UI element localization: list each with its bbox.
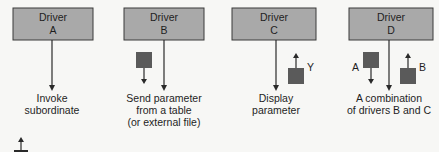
driver-d-caption-line2: of drivers B and C: [347, 104, 431, 116]
arrow-down-icon: [386, 85, 392, 91]
driver-b-title: Driver: [150, 11, 179, 23]
driver-a-caption-line2: subordinate: [25, 104, 80, 116]
driver-c-param-square: [288, 68, 304, 84]
driver-d-param-square-b: [400, 68, 416, 84]
driver-d-caption-line1: A combination: [356, 92, 422, 104]
partial-square-edge: [14, 150, 28, 152]
driver-b-letter: B: [160, 24, 167, 36]
driver-a-caption-line1: Invoke: [37, 92, 68, 104]
driver-b-caption-line1: Send parameter: [126, 92, 202, 104]
driver-d-param-label-b: B: [419, 61, 426, 73]
driver-diagram: Driver A Invoke subordinate Driver B Sen…: [0, 0, 439, 152]
driver-d: Driver D A B A combination of drivers B …: [347, 8, 433, 116]
arrow-up-icon: [293, 53, 299, 58]
arrow-down-icon: [273, 85, 279, 91]
arrow-down-icon: [49, 85, 55, 91]
driver-a: Driver A Invoke subordinate: [13, 8, 93, 116]
driver-c-letter: C: [270, 24, 278, 36]
arrow-up-icon: [18, 137, 24, 142]
arrow-down-icon: [161, 85, 167, 91]
driver-c-title: Driver: [260, 11, 289, 23]
arrow-up-icon: [405, 53, 411, 58]
driver-d-param-label-a: A: [352, 61, 359, 73]
partial-next-figure: [14, 137, 28, 152]
driver-a-letter: A: [49, 24, 56, 36]
driver-a-title: Driver: [39, 11, 68, 23]
driver-c-caption-line2: parameter: [252, 104, 300, 116]
driver-c: Driver C Y Display parameter: [232, 8, 316, 116]
driver-d-param-square-a: [363, 52, 379, 68]
driver-b: Driver B Send parameter from a table (or…: [124, 8, 204, 128]
arrow-down-icon: [141, 79, 147, 84]
driver-b-caption-line2: from a table: [136, 104, 192, 116]
driver-b-param-square: [136, 52, 152, 68]
driver-b-caption-line3: (or external file): [128, 116, 201, 128]
arrow-down-icon: [368, 79, 374, 84]
driver-d-title: Driver: [377, 11, 406, 23]
driver-c-param-label: Y: [307, 61, 314, 73]
driver-d-letter: D: [387, 24, 395, 36]
driver-c-caption-line1: Display: [259, 92, 294, 104]
